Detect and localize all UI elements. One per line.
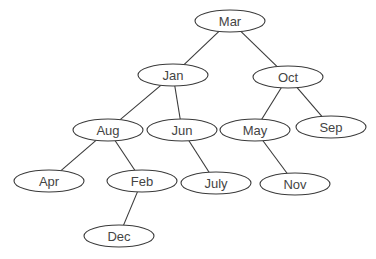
edge-jun-july bbox=[189, 141, 209, 172]
tree-node-nov: Nov bbox=[260, 173, 330, 195]
tree-node-sep: Sep bbox=[296, 116, 366, 138]
edge-mar-jan bbox=[184, 31, 219, 64]
node-label: Nov bbox=[283, 177, 307, 192]
node-label: July bbox=[204, 176, 228, 191]
node-label: Mar bbox=[219, 14, 242, 29]
node-label: Jan bbox=[163, 68, 184, 83]
edge-may-nov bbox=[263, 141, 287, 174]
tree-node-oct: Oct bbox=[253, 66, 323, 88]
edge-aug-feb bbox=[115, 141, 135, 170]
edge-mar-oct bbox=[241, 31, 277, 66]
binary-tree-diagram: MarJanOctAugJunMaySepAprFebJulyNovDec bbox=[0, 0, 376, 259]
edge-oct-may bbox=[262, 88, 282, 119]
tree-node-aug: Aug bbox=[73, 119, 143, 141]
tree-node-july: July bbox=[181, 172, 251, 194]
node-label: Sep bbox=[319, 120, 342, 135]
tree-node-apr: Apr bbox=[14, 170, 84, 192]
tree-node-jun: Jun bbox=[147, 119, 217, 141]
tree-node-jan: Jan bbox=[138, 64, 208, 86]
tree-node-dec: Dec bbox=[84, 225, 154, 247]
edge-oct-sep bbox=[297, 88, 322, 117]
tree-node-may: May bbox=[220, 119, 290, 141]
edge-jan-aug bbox=[120, 85, 161, 119]
node-label: Dec bbox=[107, 229, 131, 244]
node-label: Aug bbox=[96, 123, 119, 138]
node-label: Apr bbox=[39, 174, 60, 189]
tree-node-feb: Feb bbox=[107, 170, 177, 192]
node-label: May bbox=[243, 123, 268, 138]
tree-nodes: MarJanOctAugJunMaySepAprFebJulyNovDec bbox=[14, 10, 366, 247]
node-label: Feb bbox=[131, 174, 153, 189]
edge-aug-apr bbox=[61, 140, 96, 170]
tree-node-mar: Mar bbox=[195, 10, 265, 32]
edge-jan-jun bbox=[175, 86, 180, 119]
edge-feb-dec bbox=[124, 192, 138, 225]
node-label: Oct bbox=[278, 70, 299, 85]
node-label: Jun bbox=[172, 123, 193, 138]
